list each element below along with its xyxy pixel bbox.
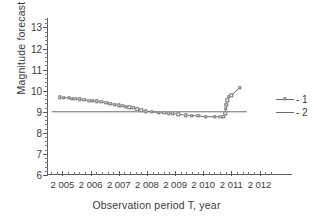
data-point — [177, 113, 180, 116]
y-tick-minor — [45, 158, 48, 159]
x-tick — [260, 171, 261, 176]
data-point — [213, 115, 216, 118]
y-tick-minor — [45, 145, 48, 146]
data-point — [184, 113, 187, 116]
x-tick-minor — [248, 172, 249, 175]
y-tick — [43, 70, 48, 71]
x-tick — [231, 171, 232, 176]
x-tick-minor — [85, 172, 86, 175]
x-tick-minor — [226, 172, 227, 175]
y-tick-minor — [45, 167, 48, 168]
y-tick-minor — [45, 116, 48, 117]
x-tick — [147, 171, 148, 176]
y-tick-label: 8 — [36, 127, 42, 138]
y-tick-label: 7 — [36, 148, 42, 159]
x-tick-minor — [113, 172, 114, 175]
legend-item-1[interactable]: - 1 — [276, 93, 308, 106]
data-point — [163, 111, 166, 114]
y-tick — [43, 154, 48, 155]
y-tick-minor — [45, 137, 48, 138]
legend: - 1 - 2 — [276, 93, 308, 119]
y-tick-minor — [45, 40, 48, 41]
x-tick-minor — [68, 172, 69, 175]
x-tick-minor — [51, 172, 52, 175]
legend-marker-line-icon — [276, 94, 294, 105]
y-tick-label: 12 — [31, 43, 42, 54]
y-tick-minor — [45, 95, 48, 96]
legend-line-icon — [276, 107, 294, 118]
y-tick-minor — [45, 32, 48, 33]
x-tick-minor — [164, 172, 165, 175]
y-tick-label: 11 — [32, 64, 42, 75]
x-tick-minor — [130, 172, 131, 175]
data-point — [225, 99, 228, 102]
legend-item-2[interactable]: - 2 — [276, 106, 308, 119]
data-point — [58, 96, 61, 99]
x-tick-minor — [124, 172, 125, 175]
x-tick-minor — [79, 172, 80, 175]
y-tick-minor — [45, 61, 48, 62]
y-tick-minor — [45, 23, 48, 24]
y-tick — [43, 91, 48, 92]
legend-label-1: - 1 — [296, 94, 308, 105]
data-point — [136, 108, 139, 111]
data-point — [91, 99, 94, 102]
y-tick-minor — [45, 120, 48, 121]
x-tick-minor — [198, 172, 199, 175]
data-point — [73, 97, 76, 100]
y-tick — [43, 27, 48, 28]
legend-label-2: - 2 — [296, 107, 308, 118]
x-tick-minor — [57, 172, 58, 175]
y-tick-label: 6 — [36, 170, 42, 181]
x-tick-label: 2 011 — [220, 179, 243, 190]
y-tick — [43, 175, 48, 176]
data-point — [196, 114, 199, 117]
y-tick-minor — [45, 129, 48, 130]
x-tick-minor — [237, 172, 238, 175]
data-point — [225, 103, 228, 106]
x-tick — [62, 171, 63, 176]
data-layer — [47, 18, 275, 175]
x-tick — [203, 171, 204, 176]
x-tick-minor — [220, 172, 221, 175]
y-tick-label: 9 — [36, 106, 42, 117]
data-point — [167, 112, 170, 115]
y-tick — [43, 49, 48, 50]
y-tick-minor — [45, 36, 48, 37]
x-tick — [175, 171, 176, 176]
x-tick-minor — [214, 172, 215, 175]
data-point — [132, 106, 135, 109]
x-tick-label: 2 012 — [248, 179, 272, 190]
x-tick-minor — [108, 172, 109, 175]
x-tick-minor — [192, 172, 193, 175]
x-tick-minor — [169, 172, 170, 175]
data-point — [144, 110, 147, 113]
series-lines — [47, 18, 293, 176]
x-tick-label: 2 005 — [51, 179, 75, 190]
data-point — [95, 100, 98, 103]
y-tick-minor — [45, 150, 48, 151]
y-tick-minor — [45, 162, 48, 163]
data-point — [223, 112, 226, 115]
x-tick-minor — [186, 172, 187, 175]
y-tick-label: 10 — [31, 85, 42, 96]
data-point — [222, 115, 225, 118]
data-point — [62, 96, 65, 99]
data-point — [113, 103, 116, 106]
data-point — [171, 112, 174, 115]
x-tick-minor — [243, 172, 244, 175]
y-axis-title: Magnitude forecast M — [15, 0, 27, 117]
data-point — [128, 106, 131, 109]
y-tick-minor — [45, 65, 48, 66]
x-tick-label: 2 007 — [107, 179, 131, 190]
y-tick-minor — [45, 82, 48, 83]
x-tick-label: 2 006 — [79, 179, 103, 190]
data-point — [104, 101, 107, 104]
x-tick-minor — [153, 172, 154, 175]
y-tick-minor — [45, 78, 48, 79]
x-axis-title: Observation period T, year — [0, 199, 313, 211]
x-tick-minor — [181, 172, 182, 175]
y-tick-minor — [45, 103, 48, 104]
x-tick-minor — [271, 172, 272, 175]
y-tick-minor — [45, 141, 48, 142]
